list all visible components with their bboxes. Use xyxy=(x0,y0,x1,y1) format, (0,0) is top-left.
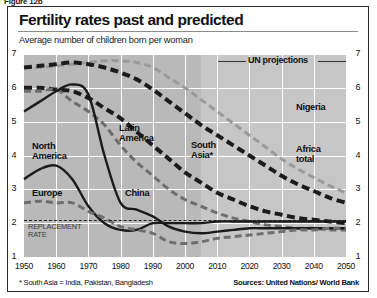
y-tick-label-right: 2 xyxy=(351,217,365,227)
series-label-latin-america: LatinAmerica xyxy=(119,123,154,143)
series-label-south-asia: SouthAsia* xyxy=(191,140,216,160)
footnote: * South Asia = India, Pakistan, Banglade… xyxy=(19,278,153,287)
y-tick-label-left: 2 xyxy=(7,217,21,227)
title-divider xyxy=(18,31,358,32)
chart-title: Fertility rates past and predicted xyxy=(19,11,243,29)
y-tick-label-left: 1 xyxy=(7,251,21,261)
y-tick-label-left: 5 xyxy=(7,116,21,126)
y-tick-label-right: 5 xyxy=(351,116,365,126)
y-tick-label-left: 7 xyxy=(7,48,21,58)
gridline-horizontal xyxy=(24,257,346,258)
sources: Sources: United Nations/ World Bank xyxy=(233,278,359,287)
y-tick-label-right: 6 xyxy=(351,82,365,92)
y-tick-label-right: 1 xyxy=(351,251,365,261)
y-tick-label-left: 6 xyxy=(7,82,21,92)
replacement-rate-line xyxy=(24,220,346,221)
series-label-china: China xyxy=(125,188,149,198)
y-tick-label-right: 3 xyxy=(351,183,365,193)
y-tick-label-right: 7 xyxy=(351,48,365,58)
series-label-north-america: NorthAmerica xyxy=(32,141,67,161)
legend-un-projections: UN projections xyxy=(248,55,308,65)
chart-subtitle: Average number of children born per woma… xyxy=(19,35,193,45)
legend-line-left xyxy=(218,61,246,62)
replacement-rate-text: RATE xyxy=(28,231,81,239)
x-tick-label: 2050 xyxy=(326,261,366,271)
y-tick-label-left: 3 xyxy=(7,183,21,193)
series-label-nigeria: Nigeria xyxy=(296,102,325,112)
y-tick-label-right: 4 xyxy=(351,150,365,160)
series-label-africa-total: Africatotal xyxy=(296,144,321,164)
chart-figure: Figure 12b Fertility rates past and pred… xyxy=(0,0,377,298)
y-tick-label-left: 4 xyxy=(7,150,21,160)
gridline-vertical xyxy=(346,54,347,257)
series-label-europe: Europe xyxy=(32,188,62,198)
legend-line-right xyxy=(318,61,346,62)
replacement-rate-annotation: REPLACEMENTRATE xyxy=(28,223,81,239)
